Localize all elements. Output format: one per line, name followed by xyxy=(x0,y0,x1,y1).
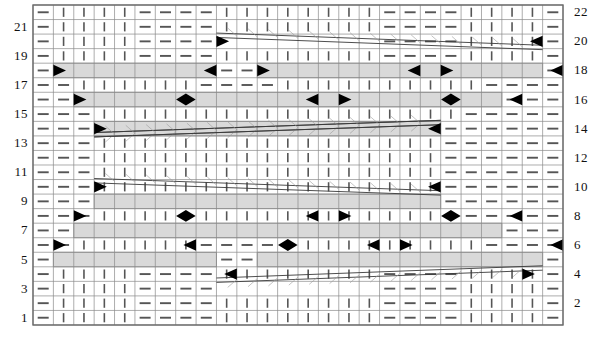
peak-diamond-marker xyxy=(278,239,298,251)
travelling-stitch-hatch xyxy=(268,179,277,187)
chart-canvas xyxy=(0,0,600,337)
row-label-right-18: 18 xyxy=(574,62,588,78)
travelling-stitch-hatch xyxy=(411,184,420,192)
row-label-left-21: 21 xyxy=(0,19,28,35)
travelling-stitch-hatch xyxy=(228,279,237,287)
grid-lines xyxy=(33,5,563,325)
travelling-stitch-hatch xyxy=(391,183,400,191)
crossing-left-marker xyxy=(510,210,523,221)
travelling-stitch-hatch xyxy=(370,183,379,191)
crossing-left-marker xyxy=(510,94,523,105)
travelling-stitch-hatch xyxy=(187,176,196,184)
cable-band xyxy=(74,92,502,107)
crossing-left-marker xyxy=(550,65,563,76)
travelling-stitch-hatch xyxy=(289,180,298,188)
row-label-left-11: 11 xyxy=(0,164,28,180)
travelling-stitch-hatch xyxy=(228,178,237,186)
row-label-right-20: 20 xyxy=(574,33,588,49)
knitting-chart: 21191715131197531222018161412108642 xyxy=(0,0,600,337)
peak-diamond-marker xyxy=(176,210,196,222)
row-label-left-7: 7 xyxy=(0,222,28,238)
travelling-stitch-hatch xyxy=(228,28,237,36)
travelling-stitch-hatch xyxy=(248,279,257,287)
row-label-right-6: 6 xyxy=(574,237,581,253)
row-label-right-10: 10 xyxy=(574,179,588,195)
row-label-right-4: 4 xyxy=(574,266,581,282)
row-label-right-8: 8 xyxy=(574,208,581,224)
row-label-left-13: 13 xyxy=(0,135,28,151)
travelling-stitch-hatch xyxy=(268,278,277,286)
crossing-right-marker xyxy=(53,239,66,250)
row-label-left-3: 3 xyxy=(0,281,28,297)
travelling-stitch-hatch xyxy=(309,31,318,39)
peak-diamond-marker xyxy=(441,210,461,222)
row-label-right-16: 16 xyxy=(574,92,588,108)
travelling-stitch-hatch xyxy=(248,29,257,37)
crossing-right-marker xyxy=(74,210,87,221)
travelling-stitch-hatch xyxy=(350,182,359,190)
travelling-stitch-hatch xyxy=(268,30,277,38)
travelling-stitch-hatch xyxy=(330,181,339,189)
crossing-left-marker xyxy=(550,239,563,250)
travelling-stitch-hatch xyxy=(146,175,155,183)
travelling-stitch-hatch xyxy=(513,39,522,47)
travelling-stitch-hatch xyxy=(309,276,318,284)
travelling-stitch-hatch xyxy=(330,276,339,284)
row-label-left-19: 19 xyxy=(0,48,28,64)
travelling-stitch-hatch xyxy=(309,181,318,189)
travelling-stitch-hatch xyxy=(207,177,216,185)
travelling-stitch-hatch xyxy=(370,274,379,282)
row-label-left-5: 5 xyxy=(0,252,28,268)
travelling-stitch-hatch xyxy=(513,269,522,277)
cable-band xyxy=(94,194,441,209)
row-label-left-17: 17 xyxy=(0,77,28,93)
row-label-left-1: 1 xyxy=(0,310,28,326)
cable-band xyxy=(74,223,502,238)
row-label-right-22: 22 xyxy=(574,4,588,20)
row-label-left-15: 15 xyxy=(0,106,28,122)
travelling-stitch-hatch xyxy=(493,270,502,278)
travelling-stitch-hatch xyxy=(493,38,502,46)
travelling-stitch-hatch xyxy=(330,32,339,40)
travelling-stitch-hatch xyxy=(472,37,481,45)
cable-band xyxy=(94,121,441,136)
travelling-stitch-hatch xyxy=(432,272,441,280)
row-label-right-14: 14 xyxy=(574,121,588,137)
row-label-right-2: 2 xyxy=(574,295,581,311)
row-label-left-9: 9 xyxy=(0,193,28,209)
travelling-stitch-hatch xyxy=(126,174,135,182)
row-label-right-12: 12 xyxy=(574,150,588,166)
travelling-stitch-hatch xyxy=(472,270,481,278)
travelling-stitch-hatch xyxy=(105,173,114,181)
travelling-stitch-hatch xyxy=(370,33,379,41)
travelling-stitch-hatch xyxy=(432,36,441,44)
